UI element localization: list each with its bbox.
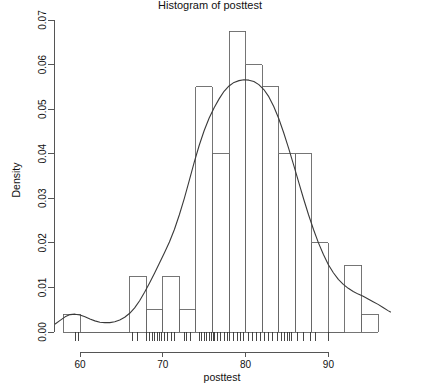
plot-svg: Histogram of posttest 0.000.010.020.030.…: [0, 0, 421, 392]
y-axis-title: Density: [10, 162, 22, 198]
histogram-bars: [63, 31, 378, 332]
histogram-bar: [312, 243, 329, 332]
histogram-bar: [163, 276, 180, 332]
histogram-bar: [279, 154, 296, 332]
y-axis-tick-label: 0.04: [37, 144, 48, 164]
y-axis-tick-label: 0.02: [37, 233, 48, 253]
histogram-bar: [345, 265, 362, 332]
x-axis-tick-label: 70: [157, 359, 169, 370]
x-axis-tick-label: 80: [240, 359, 252, 370]
y-axis-tick-label: 0.03: [37, 188, 48, 208]
y-axis-tick-label: 0.00: [37, 322, 48, 342]
y-axis-tick-label: 0.01: [37, 277, 48, 297]
histogram-bar: [246, 65, 263, 332]
y-axis-tick-label: 0.05: [37, 99, 48, 119]
histogram-bar: [362, 314, 379, 332]
histogram-bar: [196, 87, 213, 332]
x-axis-tick-label: 60: [74, 359, 86, 370]
y-axis-tick-label: 0.07: [37, 10, 48, 30]
x-axis: 60708090: [74, 352, 334, 370]
chart-title: Histogram of posttest: [158, 0, 262, 11]
histogram-bar: [262, 87, 279, 332]
x-axis-title: posttest: [204, 371, 241, 383]
rug-marks: [75, 332, 328, 341]
density-histogram-plot: Histogram of posttest 0.000.010.020.030.…: [0, 0, 421, 392]
x-axis-tick-label: 90: [323, 359, 335, 370]
density-curve: [55, 80, 390, 324]
histogram-bar: [212, 154, 229, 332]
y-axis: 0.000.010.020.030.040.050.060.07: [37, 10, 54, 342]
y-axis-tick-label: 0.06: [37, 54, 48, 74]
histogram-bar: [146, 310, 163, 332]
histogram-bar: [229, 31, 246, 332]
histogram-bar: [179, 310, 196, 332]
